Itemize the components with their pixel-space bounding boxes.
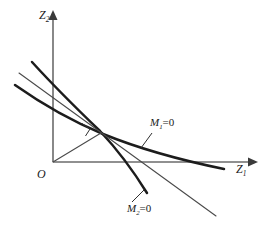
origin-label: O <box>37 168 46 180</box>
m2-label-symbol: M <box>127 202 136 214</box>
right-arrow-axis-icon <box>248 158 258 167</box>
m1-label-symbol: M <box>150 116 159 128</box>
ray-from-origin <box>53 133 101 162</box>
x-axis-label-symbol: Z <box>236 162 243 176</box>
figure-vector-graphics <box>0 0 262 228</box>
up-arrow-axis-icon <box>49 10 58 20</box>
m1-curve-label: M1=0 <box>150 117 174 131</box>
tangent-line <box>19 73 216 216</box>
y-axis-label: Z2 <box>39 9 49 24</box>
m2-label-rhs: =0 <box>140 202 152 214</box>
x-axis-label: Z1 <box>236 163 246 178</box>
m2-label-leader-line <box>132 190 144 202</box>
m1-label-leader-line <box>141 133 152 148</box>
m1-label-rhs: =0 <box>163 116 175 128</box>
figure-canvas: Z2 Z1 O M1=0 M2=0 <box>0 0 262 228</box>
y-axis-label-subscript: 2 <box>46 15 50 24</box>
x-axis-label-subscript: 1 <box>243 169 247 178</box>
y-axis-label-symbol: Z <box>39 8 46 22</box>
m1-curve <box>15 85 224 169</box>
m2-curve-label: M2=0 <box>127 203 151 217</box>
